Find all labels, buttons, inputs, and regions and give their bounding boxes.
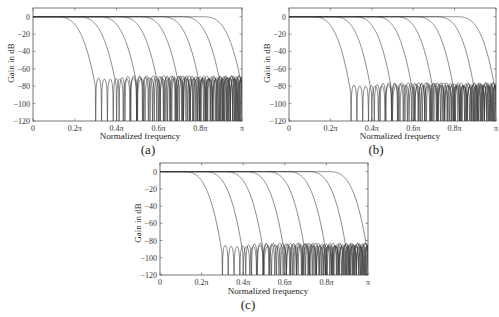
y-axis-label-c: Gain in dB [133,198,143,248]
y-tick-label: −100 [269,100,286,109]
y-tick-label: −80 [17,82,30,91]
y-tick-label: −20 [17,30,30,39]
x-tick-label: π [366,278,370,287]
y-tick-label: −40 [273,47,286,56]
y-tick-label: −60 [17,65,30,74]
x-tick-label: 0.2π [195,278,209,287]
y-tick-label: −120 [13,117,30,126]
x-axis-label-b: Normalized frequency [355,131,445,141]
y-tick-label: −100 [140,254,157,263]
x-axis-label-c: Normalized frequency [223,286,313,296]
x-tick-label: 0 [287,124,291,133]
chart-panel-c: 0−20−40−60−80−100−12000.2π0.4π0.6π0.8ππ … [125,155,385,317]
x-tick-label: 0.2π [323,124,337,133]
y-tick-label: 0 [282,13,286,22]
x-tick-label: 0.8π [319,278,333,287]
x-tick-label: π [240,124,244,133]
y-tick-label: 0 [153,168,157,177]
y-tick-label: −80 [144,237,157,246]
x-tick-label: π [494,124,498,133]
y-tick-label: −40 [17,47,30,56]
y-tick-label: −20 [144,185,157,194]
y-axis-label-b: Gain in dB [262,38,272,88]
caption-c: (c) [228,297,268,313]
x-tick-label: 0 [158,278,162,287]
chart-panel-b: 0−20−40−60−80−100−12000.2π0.4π0.6π0.8ππ … [250,0,499,160]
y-tick-label: −80 [273,82,286,91]
y-tick-label: −100 [13,100,30,109]
y-tick-label: −40 [144,202,157,211]
x-axis-label-a: Normalized frequency [95,131,185,141]
x-tick-label: 0.8π [193,124,207,133]
y-tick-label: −60 [273,65,286,74]
x-tick-label: 0.2π [68,124,82,133]
y-tick-label: −120 [269,117,286,126]
chart-panel-a: 0−20−40−60−80−100−12000.2π0.4π0.6π0.8ππ … [0,0,250,160]
y-tick-label: −60 [144,219,157,228]
x-tick-label: 0 [31,124,35,133]
y-tick-label: −20 [273,30,286,39]
y-tick-label: 0 [26,13,30,22]
x-tick-label: 0.8π [448,124,462,133]
y-tick-label: −120 [140,271,157,280]
y-axis-label-a: Gain in dB [6,38,16,88]
